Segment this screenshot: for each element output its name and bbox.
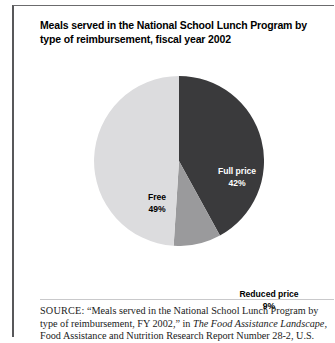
slice-label-free: Free 49% <box>122 192 192 215</box>
slice-label-free-name: Free <box>148 192 166 202</box>
pie-graphic: Full price 42% Free 49% Reduced price 9% <box>94 76 264 246</box>
figure-title: Meals served in the National School Lunc… <box>40 18 330 46</box>
source-note: SOURCE: “Meals served in the National Sc… <box>40 305 335 343</box>
pie-chart: Full price 42% Free 49% Reduced price 9% <box>26 56 335 300</box>
pie-svg <box>94 76 264 246</box>
source-divider <box>40 299 334 300</box>
source-text-part2: Food Assistance and Nutrition Research R… <box>40 330 314 341</box>
slice-label-full-price-value: 42% <box>195 178 279 190</box>
slice-label-full-price: Full price 42% <box>195 166 279 189</box>
source-publication-title: The Food Assistance Landscape, <box>193 318 327 329</box>
slice-label-full-price-name: Full price <box>218 166 256 176</box>
source-label: SOURCE: <box>40 305 84 316</box>
pie-slice-free[interactable] <box>94 76 179 246</box>
figure-frame: Meals served in the National School Lunc… <box>12 5 334 337</box>
slice-label-reduced-price-name: Reduced price <box>239 289 298 299</box>
slice-label-free-value: 49% <box>122 204 192 216</box>
